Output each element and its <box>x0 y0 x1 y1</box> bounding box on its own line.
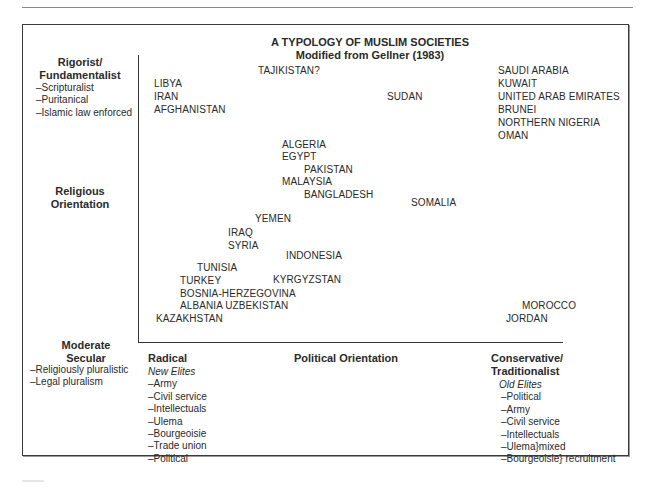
x-right-block: Conservative/ Traditionalist Old Elites … <box>491 352 616 466</box>
y-top-item: –Scripturalist <box>36 82 132 94</box>
country-label: BRUNEI <box>498 104 536 116</box>
country-label: INDONESIA <box>286 250 342 262</box>
country-label: YEMEN <box>255 213 291 225</box>
country-label: KUWAIT <box>498 78 537 90</box>
y-top-label-line-2: Fundamentalist <box>30 69 130 82</box>
x-right-subtitle: Old Elites <box>499 379 616 391</box>
y-middle-label-line-2: Orientation <box>40 198 120 211</box>
country-label: IRAQ <box>228 227 253 239</box>
x-left-item: –Political <box>148 453 207 465</box>
country-label: AFGHANISTAN <box>154 104 225 116</box>
x-left-item: –Civil service <box>148 391 207 403</box>
x-left-item: –Trade union <box>148 440 207 452</box>
country-label: SUDAN <box>387 91 423 103</box>
country-label: ALGERIA <box>282 139 326 151</box>
political-axis-line <box>138 342 563 343</box>
y-middle-label-line-1: Religious <box>40 185 120 198</box>
x-left-subtitle: New Elites <box>148 366 207 378</box>
x-right-label-line-2: Traditionalist <box>491 365 616 378</box>
y-top-items: –Scripturalist –Puritanical –Islamic law… <box>36 82 132 119</box>
y-middle-label: Religious Orientation <box>40 185 120 211</box>
country-label: NORTHERN NIGERIA <box>498 117 600 129</box>
country-label: KAZAKHSTAN <box>156 313 223 325</box>
x-right-item: –Ulema}mixed <box>501 441 616 453</box>
x-right-label-line-1: Conservative/ <box>491 352 616 365</box>
y-top-label: Rigorist/ Fundamentalist <box>30 56 130 82</box>
top-rule <box>22 7 633 8</box>
country-label: TAJIKISTAN? <box>258 65 320 77</box>
x-right-item: –Bourgeoisie} recruitment <box>501 453 616 465</box>
x-right-items: –Political –Army –Civil service –Intelle… <box>501 391 616 465</box>
x-left-item: –Intellectuals <box>148 403 207 415</box>
country-label: LIBYA <box>154 78 182 90</box>
title-line-1: A TYPOLOGY OF MUSLIM SOCIETIES <box>200 36 540 49</box>
country-label: OMAN <box>498 130 528 142</box>
y-bottom-label-line-1: Moderate <box>46 339 126 352</box>
x-center-label: Political Orientation <box>294 352 398 365</box>
religious-axis-line <box>138 55 139 343</box>
x-left-item: –Army <box>148 378 207 390</box>
x-left-block: Radical New Elites –Army –Civil service … <box>148 352 207 465</box>
y-top-label-line-1: Rigorist/ <box>30 56 130 69</box>
country-label: JORDAN <box>506 313 548 325</box>
x-right-item: –Intellectuals <box>501 429 616 441</box>
country-label: TURKEY <box>180 275 221 287</box>
title-line-2: Modified from Gellner (1983) <box>200 49 540 62</box>
country-label: SOMALIA <box>411 197 456 209</box>
country-label: ALBANIA UZBEKISTAN <box>180 300 288 312</box>
country-label: SYRIA <box>228 240 259 252</box>
country-label: BOSNIA-HERZEGOVINA <box>180 288 296 300</box>
y-bottom-items: –Religiously pluralistic –Legal pluralis… <box>30 364 128 389</box>
country-label: SAUDI ARABIA <box>498 65 569 77</box>
figure-title: A TYPOLOGY OF MUSLIM SOCIETIES Modified … <box>200 36 540 62</box>
y-bottom-item: –Religiously pluralistic <box>30 364 128 376</box>
country-label: TUNISIA <box>197 262 237 274</box>
country-label: MOROCCO <box>522 300 576 312</box>
x-right-item: –Civil service <box>501 416 616 428</box>
x-right-label: Conservative/ Traditionalist <box>491 352 616 378</box>
x-right-item: –Political <box>501 391 616 403</box>
country-label: KYRGYZSTAN <box>273 274 341 286</box>
country-label: MALAYSIA <box>282 176 332 188</box>
y-bottom-item: –Legal pluralism <box>30 376 128 388</box>
y-bottom-label: Moderate Secular <box>46 339 126 365</box>
country-label: BANGLADESH <box>304 189 373 201</box>
figure-caption-mark <box>22 480 44 482</box>
x-left-item: –Ulema <box>148 416 207 428</box>
x-left-items: –Army –Civil service –Intellectuals –Ule… <box>148 378 207 465</box>
x-right-item: –Army <box>501 404 616 416</box>
country-label: IRAN <box>154 91 178 103</box>
y-top-item: –Islamic law enforced <box>36 107 132 119</box>
x-left-label: Radical <box>148 352 207 365</box>
country-label: EGYPT <box>282 151 316 163</box>
y-top-item: –Puritanical <box>36 94 132 106</box>
country-label: UNITED ARAB EMIRATES <box>498 91 620 103</box>
country-label: PAKISTAN <box>304 164 353 176</box>
x-left-item: –Bourgeoisie <box>148 428 207 440</box>
